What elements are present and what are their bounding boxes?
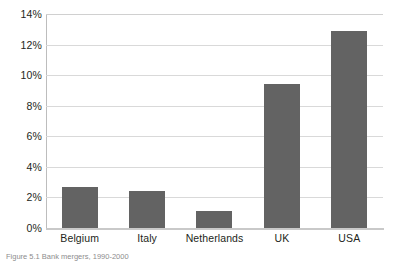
x-axis-tick-label: Italy [137, 232, 157, 245]
bar-uk [264, 84, 300, 228]
x-axis-line [46, 228, 384, 230]
y-axis-tick-label: 2% [2, 192, 42, 203]
y-axis-tick-label: 4% [2, 162, 42, 173]
y-axis-tick-label: 14% [2, 9, 42, 20]
x-axis-tick-label: Belgium [60, 232, 99, 245]
y-axis-tick-label: 10% [2, 70, 42, 81]
figure-caption: Figure 5.1 Bank mergers, 1990-2000 [6, 252, 129, 261]
x-axis-tick-label: UK [274, 232, 289, 245]
plot-area [46, 14, 383, 228]
y-axis-tick-label: 8% [2, 101, 42, 112]
x-axis-tick-label: Netherlands [186, 232, 244, 245]
y-axis-tick-label: 6% [2, 131, 42, 142]
bar-slot [113, 14, 180, 228]
bar-slot [316, 14, 383, 228]
y-axis-tick-label: 0% [2, 223, 42, 234]
y-axis-labels: 0%2%4%6%8%10%12%14% [0, 0, 42, 263]
bar-slot [181, 14, 248, 228]
x-axis-labels: BelgiumItalyNetherlandsUKUSA [46, 232, 383, 250]
bar-belgium [62, 187, 98, 228]
bar-chart-figure: 0%2%4%6%8%10%12%14% BelgiumItalyNetherla… [0, 0, 395, 263]
y-axis-tick-label: 12% [2, 40, 42, 51]
x-axis-tick-label: USA [338, 232, 360, 245]
bar-slot [248, 14, 315, 228]
bar-netherlands [196, 211, 232, 228]
bar-usa [331, 31, 367, 228]
bar-italy [129, 191, 165, 228]
bar-series [46, 14, 383, 228]
bar-slot [46, 14, 113, 228]
figure-caption-text: Figure 5.1 Bank mergers, 1990-2000 [6, 252, 129, 261]
